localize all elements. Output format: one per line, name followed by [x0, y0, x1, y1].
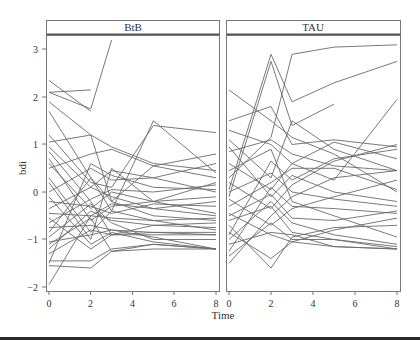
subject-line [49, 90, 91, 92]
x-axis-label: Time [212, 309, 235, 321]
x-tick-label: 8 [214, 298, 219, 309]
plot-frame-tau [227, 36, 401, 292]
x-tick-label: 2 [269, 298, 274, 309]
x-tick-label: 6 [353, 298, 358, 309]
subject-line [49, 249, 216, 268]
x-tick-label: 0 [227, 298, 232, 309]
series-lines-tau [229, 45, 397, 268]
subject-line [229, 147, 397, 202]
x-axis: 0 2 4 6 8 0 2 4 6 8 Time [47, 291, 400, 321]
y-tick-label: 1 [33, 139, 38, 150]
panel-title-btb: BtB [124, 21, 142, 33]
subject-line [49, 40, 112, 109]
subject-line [229, 107, 397, 147]
x-tick-label: 6 [172, 298, 177, 309]
subject-line [229, 173, 397, 206]
y-tick-label: 2 [33, 92, 38, 103]
panel-title-tau: TAU [302, 21, 324, 33]
x-tick-label: 0 [47, 298, 52, 309]
panel-tau: TAU [227, 21, 401, 292]
y-tick-label: −2 [27, 282, 38, 293]
subject-line [229, 225, 397, 268]
series-lines-btb [49, 40, 216, 285]
y-tick-label: 3 [33, 44, 38, 55]
x-tick-label: 8 [395, 298, 400, 309]
plot-frame-btb [47, 36, 220, 292]
subject-line [49, 202, 216, 285]
x-axis-tau: 0 2 4 6 8 [227, 291, 400, 309]
x-axis-btb: 0 2 4 6 8 [47, 291, 219, 309]
subject-line [49, 244, 216, 261]
y-tick-label: −1 [27, 234, 38, 245]
subject-line [49, 187, 216, 216]
subject-line [49, 164, 216, 264]
panel-btb: BtB [47, 21, 220, 292]
y-axis: 3 2 1 0 −1 −2 bdi [16, 44, 46, 293]
x-tick-label: 4 [130, 298, 135, 309]
subject-line [229, 142, 397, 190]
y-tick-label: 0 [33, 187, 38, 198]
subject-line [49, 102, 216, 171]
y-axis-label: bdi [16, 161, 28, 175]
x-tick-label: 4 [311, 298, 316, 309]
chart-canvas: BtB TAU 3 2 1 0 −1 −2 bdi 0 [0, 0, 420, 340]
subject-line [229, 218, 397, 258]
x-tick-label: 2 [88, 298, 93, 309]
subject-line [49, 135, 216, 202]
